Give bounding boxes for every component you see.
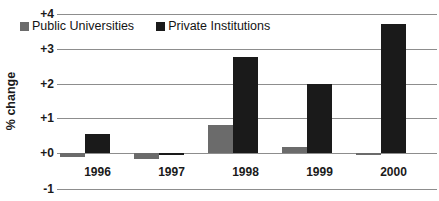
bar	[307, 84, 332, 154]
y-axis-title: % change	[0, 0, 22, 201]
legend-entry: Public Universities	[20, 20, 134, 33]
bar	[381, 24, 406, 153]
x-axis-tick-label: 1996	[63, 166, 133, 178]
bar	[60, 153, 85, 157]
x-axis-tick-label: 1998	[211, 166, 281, 178]
bar	[134, 153, 159, 159]
legend-label: Private Institutions	[168, 20, 270, 33]
bar	[208, 125, 233, 153]
bar	[282, 147, 307, 153]
bar	[159, 153, 184, 155]
y-axis-title-text: % change	[4, 71, 18, 129]
bar	[85, 134, 110, 153]
legend: Public UniversitiesPrivate Institutions	[20, 20, 270, 33]
bar-chart: % change +4+3+2+1+0-1 199619971998199920…	[0, 0, 439, 201]
x-axis-tick-label: 1997	[137, 166, 207, 178]
legend-swatch-icon	[156, 22, 165, 31]
x-axis-tick-label: 2000	[359, 166, 429, 178]
legend-entry: Private Institutions	[156, 20, 270, 33]
y-axis-tick-label: +3	[24, 43, 54, 55]
legend-swatch-icon	[20, 22, 29, 31]
y-axis-tick-label: +2	[24, 78, 54, 90]
bar	[356, 153, 381, 155]
bar	[233, 57, 258, 153]
y-axis-tick-label: -1	[24, 183, 54, 195]
y-axis-tick-label: +1	[24, 112, 54, 124]
legend-label: Public Universities	[32, 20, 134, 33]
y-axis-tick-label: +0	[24, 147, 54, 159]
x-axis-tick-label: 1999	[285, 166, 355, 178]
